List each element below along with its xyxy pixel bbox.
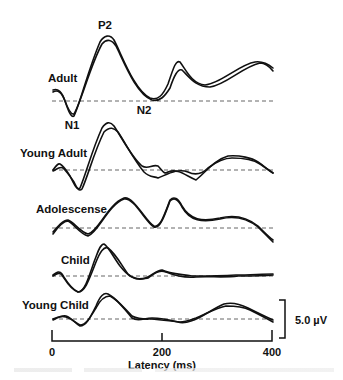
x-tick-0: 0 (49, 346, 55, 358)
annotation-n1: N1 (65, 119, 80, 131)
group-label-child: Child (61, 254, 90, 266)
trace-adult-1 (53, 36, 273, 116)
scale-bar-label: 5.0 µV (295, 314, 328, 326)
figure-caption-faint (14, 368, 334, 372)
erp-chart: P2 N1 N2 Adult Young Adult Adolescense C… (0, 0, 343, 380)
group-label-adolescense: Adolescense (36, 203, 107, 215)
group-label-young-adult: Young Adult (20, 147, 87, 159)
group-label-adult: Adult (48, 72, 78, 84)
scale-bar (279, 300, 285, 338)
x-tick-200: 200 (153, 346, 171, 358)
trace-young-adult-2 (53, 128, 273, 190)
x-axis (52, 330, 272, 341)
annotation-n2: N2 (137, 104, 152, 116)
trace-adult-2 (53, 40, 273, 114)
annotation-p2: P2 (98, 19, 112, 31)
x-tick-400: 400 (263, 346, 281, 358)
group-label-young-child: Young Child (22, 299, 89, 311)
